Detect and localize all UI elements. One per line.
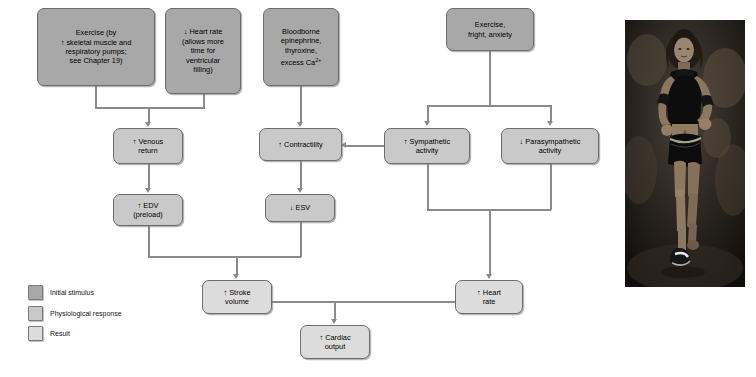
node-bloodborne-line4-text: excess Ca xyxy=(281,58,316,67)
node-contractility[interactable]: ↑ Contractility xyxy=(259,128,342,161)
node-stroke-volume-line1: ↑ Stroke xyxy=(223,288,250,297)
connector-parasympathetic-down xyxy=(550,164,552,210)
node-heart-rate-decrease-line2: (allows more xyxy=(182,37,224,46)
connector-venous-merge-bar xyxy=(95,107,205,109)
node-heart-rate-decrease-line4: ventricular xyxy=(186,56,220,65)
node-venous-return-line2: return xyxy=(138,146,157,155)
legend-label-result: Result xyxy=(50,330,70,337)
connector-contractility-to-esv xyxy=(300,161,302,190)
connector-to-heart-rate xyxy=(489,209,491,276)
node-parasympathetic-activity[interactable]: ↓ Parasympathetic activity xyxy=(501,128,599,164)
legend-item-initial-stimulus: Initial stimulus xyxy=(28,285,122,300)
node-exercise-pumps-line4: see Chapter 19) xyxy=(70,56,123,65)
arrowhead-edv xyxy=(145,188,151,193)
node-heart-rate-decrease[interactable]: ↓ Heart rate (allows more time for ventr… xyxy=(165,8,241,94)
node-parasympathetic-line1: ↓ Parasympathetic xyxy=(520,137,581,146)
node-exercise-fright-line1: Exercise, xyxy=(475,20,505,29)
connector-venous-to-edv xyxy=(148,164,150,190)
node-venous-return[interactable]: ↑ Venous return xyxy=(113,128,183,164)
arrowhead-parasympathetic xyxy=(547,121,553,126)
node-cardiac-output-line1: ↑ Cardiac xyxy=(319,333,350,342)
node-exercise-pumps[interactable]: Exercise (by ↑ skeletal muscle and respi… xyxy=(37,8,155,86)
connector-edv-down xyxy=(148,226,150,257)
arrowhead-stroke-volume xyxy=(233,274,239,279)
node-heart-rate-increase-line2: rate xyxy=(483,297,496,306)
node-edv-preload[interactable]: ↑ EDV (preload) xyxy=(113,194,183,226)
node-exercise-pumps-line3: respiratory pumps; xyxy=(65,47,126,56)
node-bloodborne-line3: thyroxine, xyxy=(285,46,317,55)
connector-esv-down xyxy=(300,222,302,257)
node-exercise-pumps-line1: Exercise (by xyxy=(76,28,117,37)
node-stroke-volume[interactable]: ↑ Stroke volume xyxy=(202,280,272,314)
diagram-canvas: Exercise (by ↑ skeletal muscle and respi… xyxy=(0,0,756,377)
node-sympathetic-line1: ↑ Sympathetic xyxy=(404,137,450,146)
connector-bloodborne-to-contractility xyxy=(300,86,302,124)
legend: Initial stimulus Physiological response … xyxy=(28,285,122,347)
connector-sympathetic-down xyxy=(427,164,429,210)
legend-label-physiological-response: Physiological response xyxy=(50,310,122,317)
runner-photo-graphic xyxy=(625,20,745,287)
legend-swatch-result xyxy=(28,326,43,341)
node-parasympathetic-line2: activity xyxy=(539,146,562,155)
node-heart-rate-increase-line1: ↑ Heart xyxy=(477,288,501,297)
node-bloodborne-superscript: 2+ xyxy=(315,56,321,62)
node-contractility-line1: ↑ Contractility xyxy=(278,140,322,149)
legend-swatch-physiological-response xyxy=(28,306,43,321)
node-heart-rate-increase[interactable]: ↑ Heart rate xyxy=(455,280,523,314)
node-exercise-pumps-line2: ↑ skeletal muscle and xyxy=(61,38,132,47)
connector-heart-rate-down-down xyxy=(203,94,205,108)
node-stroke-volume-line2: volume xyxy=(225,297,249,306)
node-bloodborne-line1: Bloodborne xyxy=(282,27,320,36)
arrowhead-contractility xyxy=(297,122,303,127)
arrowhead-venous-return xyxy=(145,122,151,127)
node-cardiac-output[interactable]: ↑ Cardiac output xyxy=(300,325,370,359)
node-heart-rate-decrease-line5: filling) xyxy=(193,65,212,74)
connector-to-stroke-volume xyxy=(236,256,238,276)
node-sympathetic-line2: activity xyxy=(416,146,439,155)
node-sympathetic-activity[interactable]: ↑ Sympathetic activity xyxy=(384,128,470,164)
legend-label-initial-stimulus: Initial stimulus xyxy=(50,289,94,296)
node-edv-line1: ↑ EDV xyxy=(138,201,159,210)
connector-exercise-pumps-down xyxy=(95,86,97,108)
connector-exercise-fright-down xyxy=(489,51,491,106)
node-heart-rate-decrease-line1: ↓ Heart rate xyxy=(184,27,223,36)
arrowhead-heart-rate xyxy=(486,274,492,279)
arrowhead-cardiac-output xyxy=(331,319,337,324)
node-exercise-fright-line2: fright, anxiety xyxy=(468,30,512,39)
connector-stroke-merge-bar xyxy=(148,256,301,258)
connector-to-cardiac-output xyxy=(334,301,336,321)
node-exercise-fright-anxiety[interactable]: Exercise, fright, anxiety xyxy=(446,8,534,51)
legend-swatch-initial-stimulus xyxy=(28,285,43,300)
legend-item-result: Result xyxy=(28,326,122,341)
arrowhead-sympathetic xyxy=(424,121,430,126)
node-cardiac-output-line2: output xyxy=(325,342,346,351)
node-bloodborne-line2: epinephrine, xyxy=(281,36,322,45)
legend-item-physiological-response: Physiological response xyxy=(28,306,122,321)
arrowhead-esv xyxy=(297,188,303,193)
node-heart-rate-decrease-line3: time for xyxy=(191,46,216,55)
node-venous-return-line1: ↑ Venous xyxy=(133,137,163,146)
node-bloodborne-hormones[interactable]: Bloodborne epinephrine, thyroxine, exces… xyxy=(263,8,339,86)
node-esv-line1: ↓ ESV xyxy=(290,203,311,212)
runner-photo xyxy=(625,20,745,287)
node-bloodborne-line4: excess Ca2+ xyxy=(281,58,322,67)
connector-autonomic-split-bar xyxy=(427,105,551,107)
node-esv[interactable]: ↓ ESV xyxy=(265,194,335,222)
node-edv-line2: (preload) xyxy=(133,210,163,219)
